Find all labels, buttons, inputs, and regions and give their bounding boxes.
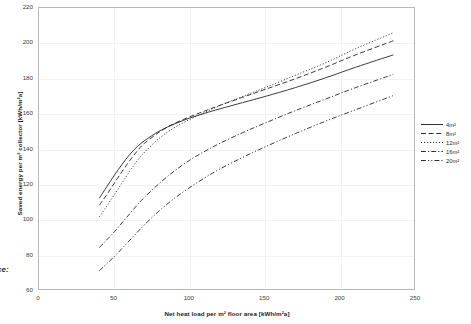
y-axis-tick-label: 140 bbox=[9, 145, 33, 152]
x-axis-tick-label: 50 bbox=[98, 294, 128, 301]
source-note: rce: bbox=[0, 265, 9, 274]
data-series-lines bbox=[39, 8, 416, 291]
legend-item-label: 12m² bbox=[446, 140, 459, 146]
y-axis-tick-label: 200 bbox=[9, 38, 33, 45]
legend-item-label: 4m² bbox=[446, 122, 456, 128]
series-line-8m² bbox=[99, 41, 393, 206]
y-axis-tick-label: 120 bbox=[9, 180, 33, 187]
y-axis-tick-label: 180 bbox=[9, 74, 33, 81]
legend-item-label: 20m² bbox=[446, 158, 459, 164]
legend-item-20m²[interactable]: 20m² bbox=[421, 156, 471, 165]
legend-item-4m²[interactable]: 4m² bbox=[421, 120, 471, 129]
y-axis-tick-label: 100 bbox=[9, 215, 33, 222]
legend-item-label: 16m² bbox=[446, 149, 459, 155]
x-axis-tick-label: 100 bbox=[174, 294, 204, 301]
y-axis-tick-label: 220 bbox=[9, 3, 33, 10]
plot-area bbox=[38, 7, 415, 290]
legend: 4m²8m²12m²16m²20m² bbox=[421, 120, 471, 165]
legend-line-swatch bbox=[421, 130, 443, 137]
y-axis-title: Saved energy per m² collector [kWh/m²a] bbox=[16, 79, 23, 229]
legend-line-swatch bbox=[421, 157, 443, 164]
x-axis-tick-label: 150 bbox=[249, 294, 279, 301]
legend-item-label: 8m² bbox=[446, 131, 456, 137]
chart-container: Saved energy per m² collector [kWh/m²a] … bbox=[0, 0, 471, 324]
x-axis-tick-label: 200 bbox=[325, 294, 355, 301]
y-axis-tick-label: 60 bbox=[9, 286, 33, 293]
legend-item-8m²[interactable]: 8m² bbox=[421, 129, 471, 138]
legend-line-swatch bbox=[421, 139, 443, 146]
legend-line-swatch bbox=[421, 121, 443, 128]
x-axis-title: Net heat load per m² floor area [kWh/m²a… bbox=[38, 310, 416, 317]
legend-item-12m²[interactable]: 12m² bbox=[421, 138, 471, 147]
x-axis-tick-label: 250 bbox=[400, 294, 430, 301]
series-line-12m² bbox=[99, 33, 393, 217]
series-line-20m² bbox=[99, 96, 393, 271]
series-line-4m² bbox=[99, 55, 393, 198]
y-axis-tick-label: 80 bbox=[9, 251, 33, 258]
series-line-16m² bbox=[99, 74, 393, 247]
x-axis-tick-label: 0 bbox=[23, 294, 53, 301]
legend-line-swatch bbox=[421, 148, 443, 155]
y-axis-tick-label: 160 bbox=[9, 109, 33, 116]
legend-item-16m²[interactable]: 16m² bbox=[421, 147, 471, 156]
